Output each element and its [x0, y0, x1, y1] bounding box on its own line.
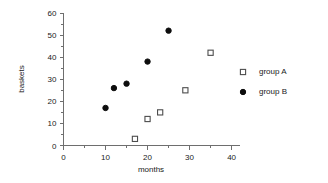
data-point-group-a [132, 136, 137, 141]
y-tick-label: 60 [48, 9, 57, 18]
x-tick-label: 10 [101, 153, 110, 162]
series-group-a-points [132, 50, 213, 141]
y-tick-label: 10 [48, 119, 57, 128]
y-axis-ticks [60, 13, 64, 146]
x-tick-label: 0 [61, 153, 66, 162]
data-point-group-b [103, 105, 108, 110]
series-group-b-points [103, 28, 171, 111]
legend-marker-group-b [240, 89, 245, 94]
data-point-group-a [208, 50, 213, 55]
y-tick-label: 0 [52, 142, 57, 151]
y-axis: 0102030405060 baskets [17, 9, 64, 151]
data-point-group-b [111, 85, 116, 90]
data-point-group-a [145, 116, 150, 121]
legend-label: group B [259, 87, 287, 96]
legend-marker-group-a [240, 69, 245, 74]
x-axis: 010203040 months [61, 146, 240, 175]
chart-legend: group Agroup B [240, 67, 287, 96]
x-tick-label: 20 [143, 153, 152, 162]
data-point-group-b [145, 59, 150, 64]
y-tick-label: 30 [48, 75, 57, 84]
data-point-group-b [166, 28, 171, 33]
x-tick-label: 40 [227, 153, 236, 162]
x-tick-label: 30 [185, 153, 194, 162]
legend-label: group A [259, 67, 287, 76]
y-axis-title: baskets [17, 65, 26, 93]
y-tick-label: 50 [48, 31, 57, 40]
y-tick-label: 40 [48, 53, 57, 62]
x-axis-ticks [64, 146, 232, 150]
y-axis-tick-labels: 0102030405060 [48, 9, 57, 151]
data-point-group-b [124, 81, 129, 86]
y-tick-label: 20 [48, 97, 57, 106]
scatter-chart: 0102030405060 baskets 010203040 months g… [0, 0, 328, 183]
x-axis-tick-labels: 010203040 [61, 153, 236, 162]
chart-canvas: 0102030405060 baskets 010203040 months g… [0, 0, 328, 183]
x-axis-title: months [138, 165, 164, 174]
data-point-group-a [158, 110, 163, 115]
data-point-group-a [183, 88, 188, 93]
